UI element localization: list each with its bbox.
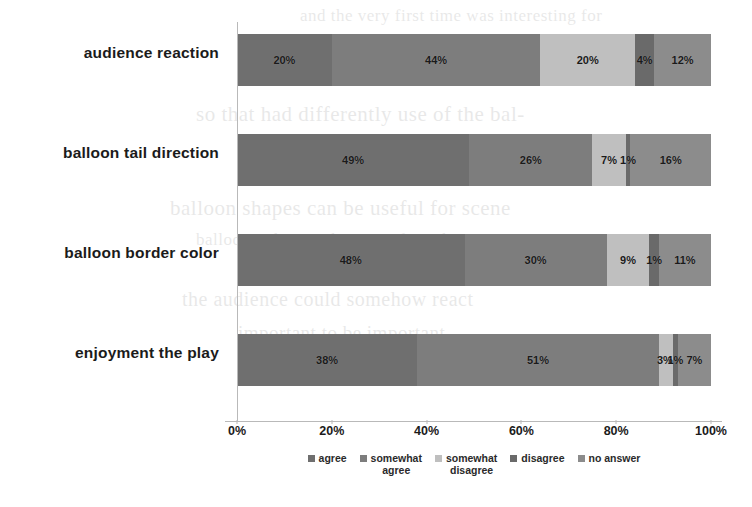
bar-segment-disagree[interactable]: 1%: [649, 234, 658, 286]
table-row[interactable]: 20% 44% 20% 4% 12%: [237, 34, 711, 86]
category-label-audience-reaction: audience reaction: [84, 44, 219, 62]
legend-label: somewhat agree: [371, 452, 422, 476]
bar-segment-disagree[interactable]: 4%: [635, 34, 654, 86]
legend-swatch-icon: [435, 455, 442, 462]
bar-segment-value: 20%: [273, 54, 295, 66]
table-row[interactable]: 48% 30% 9% 1% 11%: [237, 234, 711, 286]
bar-segment-value: 1%: [620, 154, 636, 166]
x-tick-0: 0%: [228, 424, 246, 438]
bar-segment-agree[interactable]: 38%: [237, 334, 417, 386]
table-row[interactable]: 49% 26% 7% 1% 16%: [237, 134, 711, 186]
table-row[interactable]: 38% 51% 3% 1% 7%: [237, 334, 711, 386]
chart-legend: agree somewhat agree somewhat disagree d…: [237, 452, 711, 476]
category-label-enjoyment-the-play: enjoyment the play: [75, 344, 219, 362]
bar-segment-value: 20%: [577, 54, 599, 66]
x-tick-100: 100%: [695, 424, 727, 438]
bar-segment-value: 51%: [527, 354, 549, 366]
bar-segment-somewhat-disagree[interactable]: 9%: [607, 234, 650, 286]
legend-label: no answer: [589, 452, 641, 464]
bar-segment-somewhat-agree[interactable]: 44%: [332, 34, 541, 86]
plot-area: 20% 44% 20% 4% 12% 49% 26% 7%: [237, 22, 711, 420]
bar-segment-value: 7%: [601, 154, 617, 166]
bar-segment-somewhat-agree[interactable]: 30%: [465, 234, 607, 286]
category-label-balloon-border-color: balloon border color: [64, 244, 219, 262]
bar-segment-value: 7%: [686, 354, 702, 366]
x-tick-80: 80%: [604, 424, 629, 438]
stacked-bar-chart: audience reaction balloon tail direction…: [0, 0, 752, 507]
category-label-balloon-tail-direction: balloon tail direction: [63, 144, 219, 162]
legend-item-somewhat-agree[interactable]: somewhat agree: [360, 452, 422, 476]
x-tick-60: 60%: [509, 424, 534, 438]
legend-label: somewhat disagree: [446, 452, 497, 476]
legend-swatch-icon: [578, 455, 585, 462]
y-axis-line: [237, 22, 238, 422]
legend-swatch-icon: [308, 455, 315, 462]
legend-swatch-icon: [360, 455, 367, 462]
legend-label: disagree: [521, 452, 564, 464]
x-tick-40: 40%: [414, 424, 439, 438]
bar-segment-somewhat-agree[interactable]: 51%: [417, 334, 659, 386]
bar-segment-value: 11%: [674, 254, 695, 266]
bar-segment-value: 16%: [660, 154, 682, 166]
bar-segment-somewhat-disagree[interactable]: 20%: [540, 34, 635, 86]
legend-swatch-icon: [510, 455, 517, 462]
bar-segment-value: 38%: [316, 354, 338, 366]
bar-segment-value: 44%: [425, 54, 447, 66]
x-axis-tick-labels: 0% 20% 40% 60% 80% 100%: [237, 424, 711, 446]
legend-item-no-answer[interactable]: no answer: [578, 452, 641, 464]
bar-segment-no-answer[interactable]: 16%: [630, 134, 711, 186]
y-axis-category-labels: audience reaction balloon tail direction…: [0, 22, 228, 420]
x-tick-20: 20%: [319, 424, 344, 438]
bar-segment-value: 1%: [667, 354, 683, 366]
x-axis-line: [225, 421, 722, 422]
bar-segment-value: 26%: [520, 154, 542, 166]
bar-segment-no-answer[interactable]: 12%: [654, 34, 711, 86]
legend-item-agree[interactable]: agree: [308, 452, 347, 464]
bar-segment-value: 4%: [637, 54, 653, 66]
bar-segment-agree[interactable]: 49%: [237, 134, 469, 186]
bar-segment-agree[interactable]: 20%: [237, 34, 332, 86]
bar-segment-value: 1%: [646, 254, 662, 266]
legend-label: agree: [319, 452, 347, 464]
bar-segment-value: 12%: [672, 54, 694, 66]
bar-segment-value: 48%: [340, 254, 362, 266]
bar-segment-somewhat-agree[interactable]: 26%: [469, 134, 592, 186]
bar-segment-no-answer[interactable]: 11%: [659, 234, 711, 286]
bar-segment-value: 49%: [342, 154, 364, 166]
legend-item-somewhat-disagree[interactable]: somewhat disagree: [435, 452, 497, 476]
legend-item-disagree[interactable]: disagree: [510, 452, 564, 464]
bar-segment-agree[interactable]: 48%: [237, 234, 465, 286]
bar-segment-value: 9%: [620, 254, 636, 266]
bar-segment-value: 30%: [525, 254, 547, 266]
